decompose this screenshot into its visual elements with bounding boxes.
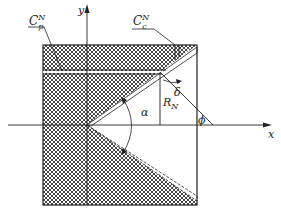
delta-arrow-icon: [176, 79, 182, 84]
cc-label: CNc: [133, 13, 150, 31]
lower-hatched-region: [43, 125, 197, 205]
phi-label: ϕ: [198, 114, 206, 127]
alpha-arc: [123, 99, 132, 153]
cp-label: CNp: [29, 13, 46, 31]
cc-leader: [132, 29, 175, 45]
y-axis-arrow-icon: [85, 4, 90, 13]
diagram-canvas: y x CNp CNc RN δ α ϕ: [0, 0, 281, 211]
upper-hatched-region: [43, 45, 197, 125]
x-axis-arrow-icon: [263, 123, 272, 128]
cp-band-gap: [43, 71, 163, 73]
y-axis-label: y: [77, 4, 85, 17]
x-axis-label: x: [268, 128, 275, 141]
delta-label: δ: [174, 86, 181, 99]
alpha-label: α: [141, 106, 149, 119]
